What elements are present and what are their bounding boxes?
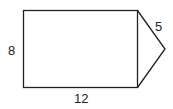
composite-shape-diagram: 8 5 12 bbox=[0, 0, 173, 109]
triangle-side-label: 5 bbox=[155, 19, 162, 34]
height-label: 8 bbox=[8, 43, 15, 58]
rectangle bbox=[24, 11, 138, 88]
width-label: 12 bbox=[74, 91, 88, 106]
